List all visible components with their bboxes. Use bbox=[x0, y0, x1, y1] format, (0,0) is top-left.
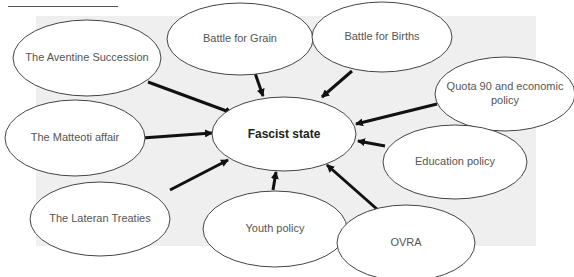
node-label: Youth policy bbox=[246, 222, 305, 236]
node-label: Battle for Births bbox=[344, 30, 419, 44]
arrow-matteoti bbox=[142, 133, 212, 138]
arrow-education bbox=[358, 141, 385, 146]
arrow-youth bbox=[273, 172, 276, 190]
node-births: Battle for Births bbox=[312, 2, 452, 72]
arrow-grain bbox=[255, 73, 263, 96]
node-ovra: OVRA bbox=[337, 205, 475, 277]
node-label: Quota 90 and economic policy bbox=[445, 80, 565, 108]
node-youth: Youth policy bbox=[203, 191, 347, 267]
node-label: OVRA bbox=[390, 236, 421, 250]
node-lateran: The Lateran Treaties bbox=[30, 182, 170, 256]
node-matteoti: The Matteoti affair bbox=[5, 100, 145, 176]
node-label: Education policy bbox=[415, 155, 495, 169]
node-grain: Battle for Grain bbox=[167, 3, 313, 75]
arrow-births bbox=[322, 71, 352, 97]
node-quota: Quota 90 and economic policy bbox=[445, 57, 565, 131]
node-label: The Matteoti affair bbox=[31, 131, 119, 145]
arrow-quota bbox=[356, 104, 437, 124]
node-label: The Aventine Succession bbox=[25, 51, 148, 65]
node-label: The Lateran Treaties bbox=[49, 212, 151, 226]
node-aventine: The Aventine Succession bbox=[13, 20, 161, 96]
center-label: Fascist state bbox=[248, 127, 321, 142]
center-node: Fascist state bbox=[212, 97, 356, 171]
node-education: Education policy bbox=[383, 125, 527, 199]
node-label: Battle for Grain bbox=[203, 32, 277, 46]
